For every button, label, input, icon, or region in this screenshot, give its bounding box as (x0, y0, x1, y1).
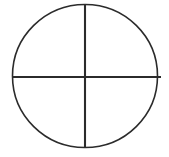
figure-canvas (0, 0, 169, 157)
quartered-circle-diagram (0, 0, 169, 157)
